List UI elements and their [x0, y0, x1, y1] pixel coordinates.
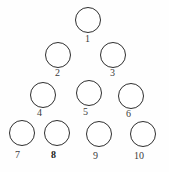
circle-label-2: 2 [55, 68, 60, 78]
circle-label-4: 4 [37, 108, 42, 118]
circle-label-10: 10 [134, 151, 144, 161]
circle-outline-3 [100, 42, 126, 68]
circle-outline-1 [75, 7, 101, 33]
circle-label-5: 5 [83, 107, 88, 117]
circle-outline-2 [45, 42, 71, 68]
circle-outline-4 [30, 82, 56, 108]
circle-label-3: 3 [110, 68, 115, 78]
circle-outline-10 [130, 121, 156, 147]
circle-outline-7 [9, 120, 35, 146]
circle-label-8: 8 [51, 150, 56, 160]
circle-label-7: 7 [15, 150, 20, 160]
diagram-canvas: 12345678910 [0, 0, 169, 172]
circle-label-9: 9 [93, 151, 98, 161]
circle-outline-6 [118, 83, 144, 109]
circle-outline-9 [86, 121, 112, 147]
circle-label-1: 1 [85, 34, 90, 44]
circle-label-6: 6 [126, 109, 131, 119]
circle-outline-5 [76, 80, 102, 106]
circle-outline-8 [44, 120, 70, 146]
